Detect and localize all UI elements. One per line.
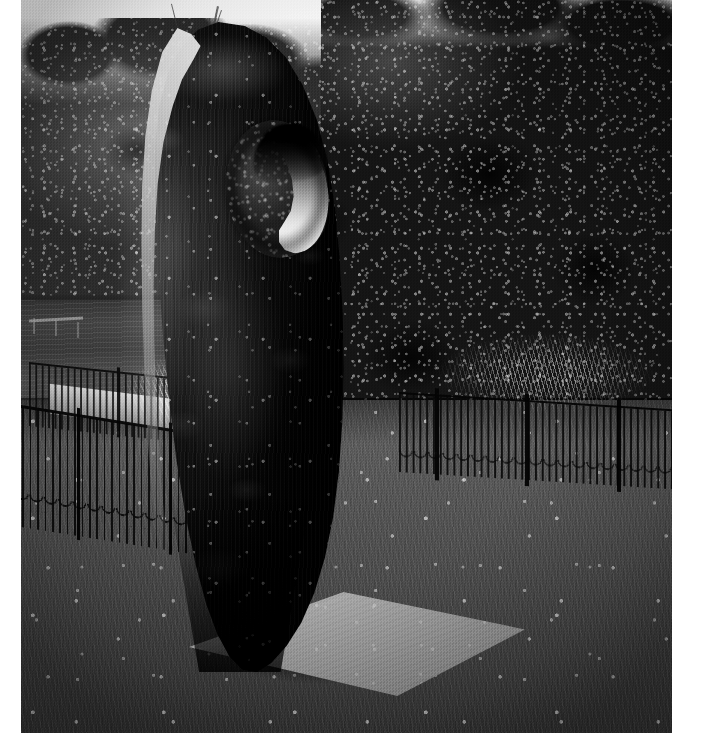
jetty-post — [33, 318, 35, 334]
railing-post — [617, 400, 621, 492]
jetty-post — [77, 322, 79, 338]
bronze-sculpture — [108, 22, 348, 672]
jetty-post — [55, 320, 57, 336]
photograph-image — [21, 0, 672, 733]
photograph-canvas: abstract pierced bronze sculpture standi… — [0, 0, 705, 733]
railing-right-run — [399, 386, 672, 513]
sculpture-aperture — [226, 120, 328, 258]
railing-post — [435, 388, 439, 480]
railing-post — [525, 394, 529, 486]
